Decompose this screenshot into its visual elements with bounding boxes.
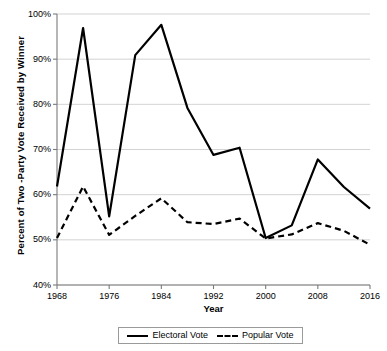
- series-line-electoral-vote: [57, 25, 370, 238]
- x-tick-label: 2016: [350, 292, 387, 301]
- x-tick-label: 1992: [194, 292, 234, 301]
- line-chart: Percent of Two -Party Vote Received by W…: [0, 0, 387, 351]
- legend-item-electoral-vote: Electoral Vote: [127, 331, 208, 340]
- x-tick-label: 1984: [141, 292, 181, 301]
- y-tick-label: 90%: [17, 55, 51, 64]
- y-tick-label: 60%: [17, 190, 51, 199]
- legend-label-electoral-vote: Electoral Vote: [152, 331, 208, 340]
- y-tick-label: 70%: [17, 145, 51, 154]
- y-tick-label: 100%: [17, 10, 51, 19]
- y-tick-label: 40%: [17, 281, 51, 290]
- series-line-popular-vote: [57, 187, 370, 245]
- x-tick-label: 1968: [37, 292, 77, 301]
- x-tick-label: 2008: [298, 292, 338, 301]
- x-tick-label: 1976: [89, 292, 129, 301]
- legend-label-popular-vote: Popular Vote: [242, 331, 294, 340]
- legend-item-popular-vote: Popular Vote: [217, 331, 294, 340]
- data-series-group: [57, 25, 370, 245]
- solid-line-swatch-icon: [127, 335, 148, 337]
- gridlines: [57, 14, 370, 285]
- y-tick-label: 50%: [17, 235, 51, 244]
- chart-legend: Electoral Vote Popular Vote: [118, 327, 303, 344]
- y-tick-label: 80%: [17, 100, 51, 109]
- x-axis-title: Year: [57, 303, 370, 314]
- x-tick-label: 2000: [246, 292, 286, 301]
- dashed-line-swatch-icon: [217, 335, 238, 337]
